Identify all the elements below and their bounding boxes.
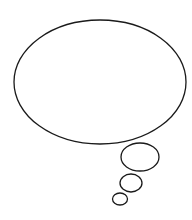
background [0,0,192,220]
thought-bubble-illustration [0,0,192,220]
